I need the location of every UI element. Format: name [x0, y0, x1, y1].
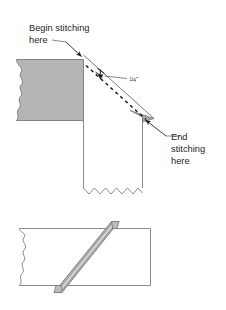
measure-tick-upper — [98, 69, 105, 74]
fraction-unit: " — [136, 75, 138, 82]
begin-stitching-label-line2: here — [29, 35, 48, 45]
sewing-diagram-figure: 1/4" Begin stitching here End stitching … — [0, 0, 226, 310]
seam-band-top-tail — [112, 222, 120, 229]
begin-stitching-label-line1: Begin stitching — [29, 23, 89, 33]
bottom-diagram-group — [19, 222, 150, 293]
end-stitching-label-line1: End — [171, 132, 188, 142]
diagonal-cut-line — [84, 55, 155, 119]
seam-band-bottom-tail — [54, 286, 62, 293]
diagram-canvas: 1/4" Begin stitching here End stitching … — [0, 0, 226, 310]
end-leader-arrow — [146, 120, 167, 136]
begin-leader-line — [52, 40, 66, 42]
end-stitching-label-line3: here — [171, 156, 190, 166]
measurement-label: 1/4" — [130, 75, 139, 83]
top-diagram-group: 1/4" Begin stitching here End stitching … — [16, 23, 205, 194]
begin-leader-arrow — [66, 42, 82, 57]
gray-fabric-piece — [16, 60, 83, 121]
end-stitching-label-line2: stitching — [171, 144, 205, 154]
zigzag-bottom-edge — [84, 188, 143, 194]
